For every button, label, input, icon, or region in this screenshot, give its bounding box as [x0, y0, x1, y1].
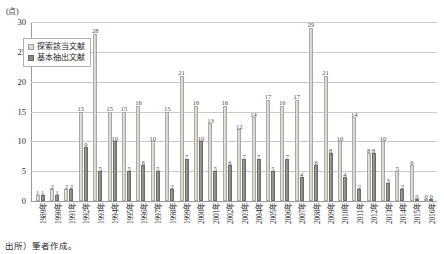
bar-group: 105	[148, 22, 162, 201]
bar-search: 6	[410, 165, 414, 201]
bar-group: 1510	[105, 22, 119, 201]
bar-basic: 5	[127, 171, 131, 201]
x-axis-cell: 2004年	[249, 203, 263, 239]
bar-group: 175	[263, 22, 277, 201]
y-tick-label-20: 20	[18, 77, 27, 87]
bar-value-label: 2	[65, 183, 68, 190]
x-axis-cell: 2011年	[350, 203, 364, 239]
bar-basic: 10	[199, 141, 203, 201]
chart-title-clipped	[0, 0, 444, 7]
bar-basic: 2	[357, 189, 361, 201]
bar-value-label: 9	[84, 141, 87, 148]
bar-value-label: 14	[250, 111, 257, 118]
bar-search: 8	[367, 153, 371, 201]
bar-value-label: 15	[78, 105, 85, 112]
bar-value-label: 16	[135, 99, 142, 106]
bar-basic: 5	[98, 171, 102, 201]
y-tick-label-10: 10	[18, 136, 27, 146]
bar-value-label: 16	[193, 99, 200, 106]
bar-value-label: 8	[372, 147, 375, 154]
bar-value-label: 29	[308, 21, 315, 28]
bar-value-label: 17	[265, 93, 272, 100]
bar-search: 1	[36, 195, 40, 201]
bar-search: 29	[309, 28, 313, 201]
bar-value-label: 28	[92, 27, 99, 34]
bar-group: 218	[321, 22, 335, 201]
bar-basic: 5	[213, 171, 217, 201]
x-axis-cell: 2003年	[234, 203, 248, 239]
bar-group: 217	[177, 22, 191, 201]
x-axis-cell: 2002年	[220, 203, 234, 239]
bar-value-label: 4	[343, 171, 346, 178]
bar-group: 52	[393, 22, 407, 201]
bar-basic: 2	[69, 189, 73, 201]
bar-basic: 7	[257, 159, 261, 201]
x-axis-cell: 2012年	[364, 203, 378, 239]
legend-entry-0: 探索該当文献	[28, 41, 85, 52]
bar-basic: 6	[228, 165, 232, 201]
bar-search: 14	[352, 117, 356, 201]
bar-basic: 8	[329, 153, 333, 201]
bar-group: 1610	[191, 22, 205, 201]
bar-search: 0	[424, 199, 428, 201]
x-axis-cell: 2009年	[321, 203, 335, 239]
bar-search: 14	[252, 117, 256, 201]
bar-group: 166	[134, 22, 148, 201]
bar-value-label: 10	[380, 135, 387, 142]
bar-basic: 5	[156, 171, 160, 201]
x-axis-cell: 2008年	[306, 203, 320, 239]
y-tick-label-15: 15	[18, 107, 27, 117]
bar-search: 5	[395, 171, 399, 201]
bar-search: 15	[122, 112, 126, 202]
bar-basic: 8	[372, 153, 376, 201]
bar-basic: 6	[314, 165, 318, 201]
bar-value-label: 2	[171, 183, 174, 190]
bar-search: 16	[223, 106, 227, 201]
bar-search: 17	[295, 100, 299, 201]
x-axis-cell: 1990年	[47, 203, 61, 239]
bar-value-label: 3	[386, 177, 389, 184]
bar-group: 88	[364, 22, 378, 201]
bar-value-label: 2	[70, 183, 73, 190]
x-axis-cell: 1996年	[134, 203, 148, 239]
bar-search: 10	[151, 141, 155, 201]
bar-value-label: 7	[286, 153, 289, 160]
legend-swatch-icon	[28, 55, 34, 61]
bar-value-label: 10	[337, 135, 344, 142]
bar-basic: 4	[300, 177, 304, 201]
bar-group: 00	[422, 22, 436, 201]
bar-search: 17	[266, 100, 270, 201]
bar-value-label: 2	[401, 183, 404, 190]
bar-value-label: 6	[314, 159, 317, 166]
x-axis-cell: 1993年	[91, 203, 105, 239]
x-axis-labels: 1989年1990年1991年1992年1993年1994年1995年1996年…	[32, 203, 437, 239]
bar-group: 104	[335, 22, 349, 201]
x-axis-cell: 2000年	[191, 203, 205, 239]
bar-value-label: 4	[300, 171, 303, 178]
bar-value-label: 10	[111, 135, 118, 142]
y-tick-label-0: 0	[22, 196, 26, 206]
x-axis-cell: 2006年	[278, 203, 292, 239]
x-tick-label-27: 2016年	[429, 203, 437, 224]
bar-value-label: 5	[214, 165, 217, 172]
bar-value-label: 15	[106, 105, 113, 112]
bar-value-label: 15	[121, 105, 128, 112]
x-axis-cell: 1992年	[76, 203, 90, 239]
x-axis-cell: 1997年	[148, 203, 162, 239]
bar-basic: 7	[242, 159, 246, 201]
bar-basic: 2	[170, 189, 174, 201]
bar-value-label: 6	[142, 159, 145, 166]
bar-basic: 10	[113, 141, 117, 201]
bar-group: 155	[119, 22, 133, 201]
legend-label-1: 基本抽出文献	[37, 52, 85, 63]
x-axis-cell: 1995年	[119, 203, 133, 239]
bar-basic: 5	[271, 171, 275, 201]
bar-value-label: 0	[425, 193, 428, 200]
legend-swatch-icon	[28, 44, 34, 50]
x-axis-cell: 1998年	[163, 203, 177, 239]
bar-value-label: 5	[271, 165, 274, 172]
bar-value-label: 2	[50, 183, 53, 190]
bar-group: 127	[234, 22, 248, 201]
bar-search: 12	[237, 129, 241, 201]
x-axis-cell: 2016年	[422, 203, 436, 239]
